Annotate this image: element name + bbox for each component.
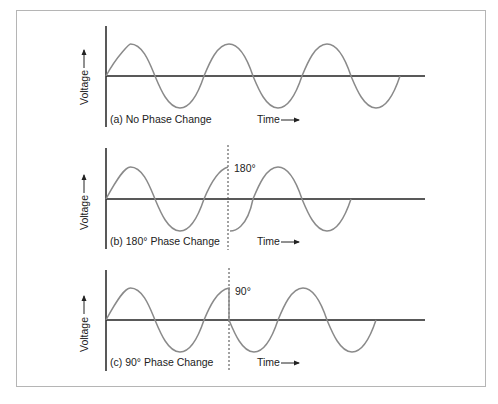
panel-caption: (c) 90° Phase Change [110,356,214,368]
time-label: Time [257,235,280,247]
time-label: Time [257,113,280,125]
phase-label: 180° [234,162,256,174]
time-label: Time [257,356,280,368]
panel-a: Voltage (a) No Phase Change Time [78,26,425,127]
phase-change-diagram: Voltage (a) No Phase Change Time Voltage… [0,0,498,404]
voltage-label: Voltage [78,70,90,105]
panel-c: Voltage 90° (c) 90° Phase Change Time [78,268,425,372]
phase-label: 90° [235,285,251,297]
panel-caption: (b) 180° Phase Change [110,235,220,247]
panel-caption: (a) No Phase Change [110,113,212,125]
voltage-label: Voltage [78,317,90,352]
voltage-label: Voltage [78,195,90,230]
panel-b: Voltage 180° (b) 180° Phase Change Time [78,145,425,250]
